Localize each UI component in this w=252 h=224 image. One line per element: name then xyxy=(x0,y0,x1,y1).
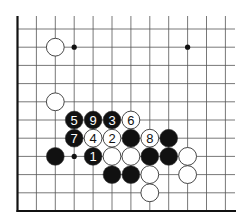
move-number: 9 xyxy=(89,113,96,128)
move-number: 3 xyxy=(108,113,115,128)
white-stone-icon xyxy=(141,184,159,202)
white-stone-move-2: 2 xyxy=(103,129,121,147)
move-number: 8 xyxy=(146,131,153,146)
move-number: 1 xyxy=(89,149,96,164)
hoshi-point-icon xyxy=(72,154,77,159)
white-stone-icon xyxy=(103,148,121,166)
white-stone xyxy=(46,38,64,56)
white-stone-move-4: 4 xyxy=(84,129,102,147)
black-stone-icon xyxy=(160,148,178,166)
black-stone xyxy=(46,148,64,166)
white-stone xyxy=(46,93,64,111)
black-stone-icon xyxy=(103,166,121,184)
hoshi-point-icon xyxy=(72,45,77,50)
move-number: 4 xyxy=(89,131,96,146)
black-stone xyxy=(122,129,140,147)
white-stone-move-8: 8 xyxy=(141,129,159,147)
white-stone xyxy=(179,148,197,166)
black-stone-icon xyxy=(160,129,178,147)
black-stone xyxy=(160,129,178,147)
move-number: 7 xyxy=(71,131,78,146)
white-stone-icon xyxy=(179,148,197,166)
white-stone-icon xyxy=(46,93,64,111)
black-stone-move-5: 5 xyxy=(65,111,83,129)
black-stone-move-7: 7 xyxy=(65,129,83,147)
black-stone xyxy=(103,166,121,184)
black-stone xyxy=(141,148,159,166)
black-stone-icon xyxy=(46,148,64,166)
white-stone xyxy=(122,148,140,166)
black-stone-move-3: 3 xyxy=(103,111,121,129)
white-stone xyxy=(141,184,159,202)
white-stone-move-6: 6 xyxy=(122,111,140,129)
white-stone-icon xyxy=(122,148,140,166)
white-stone xyxy=(141,166,159,184)
black-stone xyxy=(122,166,140,184)
go-board: 593674281 xyxy=(0,0,252,224)
black-stone-move-9: 9 xyxy=(84,111,102,129)
white-stone-icon xyxy=(179,166,197,184)
white-stone-icon xyxy=(141,166,159,184)
black-stone xyxy=(160,148,178,166)
hoshi-point-icon xyxy=(185,45,190,50)
black-stone-move-1: 1 xyxy=(84,148,102,166)
move-number: 5 xyxy=(71,113,78,128)
white-stone xyxy=(103,148,121,166)
black-stone-icon xyxy=(122,166,140,184)
white-stone-icon xyxy=(46,38,64,56)
black-stone-icon xyxy=(122,129,140,147)
move-number: 2 xyxy=(108,131,115,146)
white-stone xyxy=(179,166,197,184)
move-number: 6 xyxy=(127,113,134,128)
black-stone-icon xyxy=(141,148,159,166)
